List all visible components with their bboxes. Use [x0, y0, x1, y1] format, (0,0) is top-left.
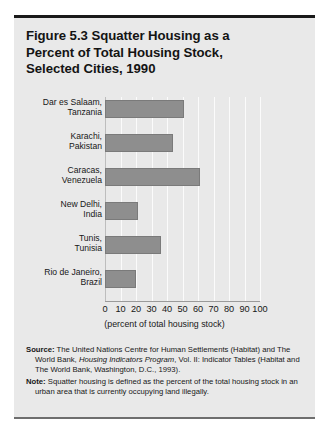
category-label: New Delhi, India	[14, 199, 102, 220]
definition-note: Note: Squatter housing is defined as the…	[26, 377, 303, 397]
category-label-line-2: Pakistan	[14, 141, 102, 151]
x-axis-tick-labels: 0102030405060708090100	[14, 304, 315, 317]
x-tick-100: 100	[252, 304, 267, 314]
chart-row: Karachi, Pakistan	[14, 131, 315, 165]
figure-title-line-3: Selected Cities, 1990	[26, 61, 304, 78]
chart-row: Dar es Salaam, Tanzania	[14, 97, 315, 131]
figure-title-line-1: Figure 5.3 Squatter Housing as a	[26, 28, 304, 45]
page-title: Figure 5.3 Squatter Housing as a Percent…	[26, 28, 304, 78]
category-label-line-1: Rio de Janeiro,	[44, 267, 102, 277]
chart-row: Caracas, Venezuela	[14, 165, 315, 199]
x-axis-line	[105, 301, 260, 302]
top-divider	[14, 15, 315, 18]
bar-chart: Dar es Salaam, Tanzania Karachi, Pakista…	[14, 97, 315, 312]
figure-notes: Source: The United Nations Centre for Hu…	[26, 345, 303, 398]
bar-caracas	[105, 168, 200, 186]
bar-karachi	[105, 134, 173, 152]
category-label: Caracas, Venezuela	[14, 165, 102, 186]
figure-panel: Figure 5.3 Squatter Housing as a Percent…	[14, 15, 315, 419]
x-tick-0: 0	[102, 304, 107, 314]
x-axis-label: (percent of total housing stock)	[14, 319, 315, 329]
x-tick-70: 70	[208, 304, 218, 314]
bar-rio-de-janeiro	[105, 270, 136, 288]
x-tick-30: 30	[146, 304, 156, 314]
chart-row: New Delhi, India	[14, 199, 315, 233]
category-label-line-2: Tanzania	[14, 107, 102, 117]
category-label: Tunis, Tunisia	[14, 233, 102, 254]
bar-tunis	[105, 236, 161, 254]
bottom-divider	[14, 417, 315, 419]
note-label: Note:	[26, 377, 46, 386]
chart-row: Tunis, Tunisia	[14, 233, 315, 267]
bar-dar-es-salaam	[105, 100, 184, 118]
x-tick-20: 20	[131, 304, 141, 314]
category-label-line-2: India	[14, 209, 102, 219]
category-label-line-2: Brazil	[14, 277, 102, 287]
category-label: Dar es Salaam, Tanzania	[14, 97, 102, 118]
category-label: Karachi, Pakistan	[14, 131, 102, 152]
x-tick-80: 80	[224, 304, 234, 314]
category-label-line-1: Caracas,	[68, 165, 102, 175]
category-label-line-1: Dar es Salaam,	[43, 97, 102, 107]
category-label-line-2: Tunisia	[14, 243, 102, 253]
x-tick-40: 40	[162, 304, 172, 314]
x-tick-90: 90	[239, 304, 249, 314]
category-label-line-1: Karachi,	[70, 131, 102, 141]
note-text: Squatter housing is defined as the perce…	[35, 377, 298, 396]
x-tick-50: 50	[177, 304, 187, 314]
category-label-line-2: Venezuela	[14, 175, 102, 185]
chart-row: Rio de Janeiro, Brazil	[14, 267, 315, 301]
source-note: Source: The United Nations Centre for Hu…	[26, 345, 303, 376]
x-tick-60: 60	[193, 304, 203, 314]
bar-new-delhi	[105, 202, 138, 220]
figure-title-line-2: Percent of Total Housing Stock,	[26, 45, 304, 62]
category-label-line-1: Tunis,	[79, 233, 102, 243]
x-tick-10: 10	[115, 304, 125, 314]
category-label: Rio de Janeiro, Brazil	[14, 267, 102, 288]
source-publication-title: Housing Indicators Program	[79, 355, 174, 364]
source-label: Source:	[26, 345, 55, 354]
category-label-line-1: New Delhi,	[60, 199, 102, 209]
